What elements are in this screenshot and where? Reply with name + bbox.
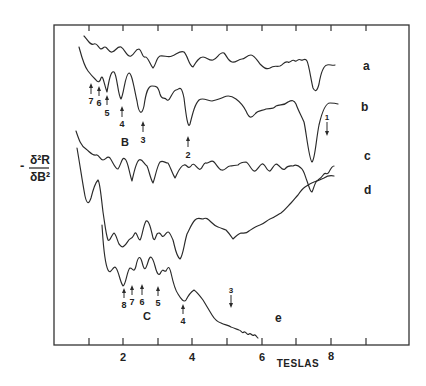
x-tick-label-6: 6: [259, 351, 265, 363]
curve-c: [76, 131, 334, 192]
svg-text:2: 2: [185, 150, 190, 160]
marker-b-7: 7: [88, 83, 93, 106]
x-tick-label-4: 4: [189, 351, 196, 363]
x-tick-label-2: 2: [120, 351, 126, 363]
curve-label-d: d: [364, 183, 371, 197]
y-axis-label: - δ²R δB²: [20, 153, 50, 184]
marker-e-4: 4: [180, 304, 185, 326]
group-label-C: C: [143, 310, 151, 322]
svg-text:6: 6: [96, 98, 101, 108]
x-tick-label-8: 8: [328, 350, 334, 362]
marker-b-2: 2: [185, 136, 190, 160]
svg-text:3: 3: [229, 286, 234, 295]
magnetoresistance-chart: 2 4 6 8 TESLAS - δ²R δB² a b c d e 7 6: [0, 0, 426, 386]
svg-text:1: 1: [325, 113, 330, 122]
group-label-B: B: [121, 136, 129, 148]
top-ticks: [89, 25, 366, 31]
marker-e-8: 8: [121, 288, 126, 310]
marker-b-6: 6: [96, 86, 101, 108]
marker-e-3: 3: [229, 286, 234, 308]
curve-b: [79, 47, 338, 162]
svg-text:5: 5: [155, 298, 160, 308]
bottom-ticks: [89, 338, 366, 345]
svg-text:6: 6: [139, 297, 144, 307]
y-label-minus: -: [20, 158, 24, 173]
marker-b-1: 1: [325, 113, 330, 136]
y-label-numerator: δ²R: [30, 153, 50, 167]
svg-text:8: 8: [121, 300, 126, 310]
curve-e-markers: 8 7 6 5 4 3: [121, 284, 233, 326]
marker-b-5: 5: [104, 95, 109, 118]
marker-e-5: 5: [155, 286, 160, 308]
y-label-denominator: δB²: [30, 170, 50, 184]
svg-text:4: 4: [119, 119, 124, 129]
curve-b-markers: 7 6 5 4 3 2 1: [88, 83, 329, 160]
svg-text:4: 4: [180, 316, 185, 326]
svg-text:7: 7: [129, 297, 134, 307]
curve-label-a: a: [363, 59, 370, 73]
svg-text:7: 7: [88, 96, 93, 106]
curve-a: [84, 36, 335, 91]
marker-b-4: 4: [119, 106, 124, 129]
curve-label-e: e: [275, 311, 282, 325]
curve-label-c: c: [364, 149, 371, 163]
svg-text:3: 3: [140, 135, 145, 145]
marker-b-3: 3: [140, 121, 145, 145]
marker-e-6: 6: [139, 284, 144, 307]
svg-text:5: 5: [104, 108, 109, 118]
x-axis-label: TESLAS: [277, 358, 319, 369]
marker-e-7: 7: [129, 285, 134, 307]
curve-label-b: b: [361, 100, 368, 114]
